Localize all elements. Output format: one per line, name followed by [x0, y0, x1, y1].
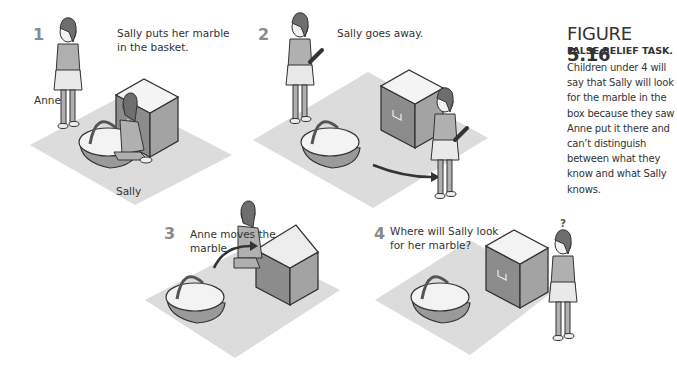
label-sally: Sally [116, 185, 141, 197]
figure-description: Children under 4 will say that Sally wil… [567, 60, 677, 197]
panel-2-caption: Sally goes away. [337, 26, 423, 40]
panel-1-caption: Sally puts her marble in the basket. [117, 26, 230, 54]
panel-number-2: 2 [258, 25, 269, 44]
panel-4-caption-line1: Where will Sally look [390, 224, 498, 238]
panel-1-caption-line1: Sally puts her marble [117, 26, 230, 40]
label-anne: Anne [34, 94, 61, 106]
panel-number-4: 4 [374, 224, 385, 243]
figure-heading: FALSE BELIEF TASK. [567, 45, 673, 56]
panel-3-caption-line2: marble. [190, 241, 276, 255]
panel-2-caption-line1: Sally goes away. [337, 26, 423, 40]
panel-number-3: 3 [164, 224, 175, 243]
figure-label: FIGURE [567, 23, 632, 44]
panel-3-caption-line1: Anne moves the [190, 227, 276, 241]
panel-2-scene [253, 13, 488, 208]
figure-title: FIGURE 5.16 [567, 23, 677, 65]
question-mark: ? [560, 217, 566, 229]
panel-number-1: 1 [33, 25, 44, 44]
panel-3-caption: Anne moves the marble. [190, 227, 276, 255]
panel-4-caption: Where will Sally look for her marble? [390, 224, 498, 252]
panel-1-caption-line2: in the basket. [117, 40, 230, 54]
panel-4-caption-line2: for her marble? [390, 238, 498, 252]
